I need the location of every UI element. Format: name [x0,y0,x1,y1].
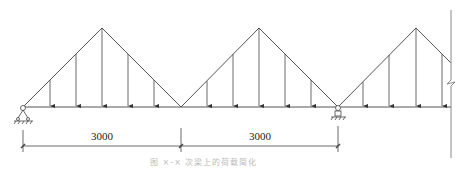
dimension-label-span-1: 3000 [72,130,132,142]
load-arrows-span-3 [363,28,442,106]
load-arrows-span-2 [207,28,311,106]
load-envelope [23,28,451,107]
figure-caption: 图 ×-× 次梁上的荷载简化 [150,156,330,167]
beam-diagram [0,0,464,173]
wall-break-icon [447,10,455,158]
dimension-label-span-2: 3000 [230,130,290,142]
roller-support-icon [331,106,346,121]
dimension-lines [21,126,340,152]
load-arrows-span-1 [50,28,154,106]
pin-support-icon [14,106,33,125]
